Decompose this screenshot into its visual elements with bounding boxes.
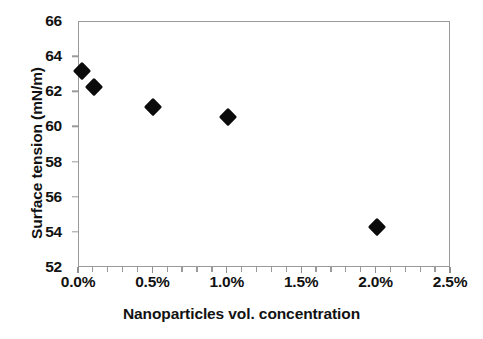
x-axis-major-tick — [301, 267, 302, 273]
x-axis-major-tick — [449, 267, 450, 273]
x-axis-minor-tick — [196, 267, 197, 272]
x-axis-tick-label: 2.5% — [433, 273, 468, 291]
x-axis-major-tick — [77, 267, 78, 273]
data-point-marker — [85, 78, 103, 96]
x-axis-major-tick — [226, 267, 227, 273]
x-axis-tick-label: 0.0% — [61, 273, 96, 291]
data-point-marker — [367, 218, 385, 236]
x-axis-title: Nanoparticles vol. concentration — [0, 305, 483, 323]
x-axis-minor-tick — [434, 267, 435, 272]
x-axis-tick-label: 0.5% — [135, 273, 170, 291]
x-axis-tick-label: 1.5% — [284, 273, 319, 291]
x-axis-minor-tick — [330, 267, 331, 272]
x-axis-minor-tick — [92, 267, 93, 272]
x-axis-minor-tick — [122, 267, 123, 272]
x-axis-minor-tick — [405, 267, 406, 272]
x-axis-minor-tick — [256, 267, 257, 272]
x-axis-tick-labels: 0.0%0.5%1.0%1.5%2.0%2.5% — [0, 273, 483, 295]
x-axis-minor-tick — [345, 267, 346, 272]
y-axis-tick-label: 56 — [45, 188, 62, 206]
data-point-marker — [144, 98, 162, 116]
x-axis-minor-tick — [390, 267, 391, 272]
y-axis-tick-label: 62 — [45, 82, 62, 100]
y-axis-tick-label: 58 — [45, 153, 62, 171]
y-axis-tick-label: 66 — [45, 12, 62, 30]
y-axis-tick-label: 60 — [45, 117, 62, 135]
x-axis-minor-tick — [241, 267, 242, 272]
x-axis-minor-tick — [181, 267, 182, 272]
plot-area — [78, 21, 450, 267]
x-axis-major-tick — [152, 267, 153, 273]
x-axis-minor-tick — [315, 267, 316, 272]
x-axis-minor-tick — [360, 267, 361, 272]
data-point-marker — [219, 108, 237, 126]
x-axis-minor-tick — [286, 267, 287, 272]
x-axis-minor-tick — [167, 267, 168, 272]
y-axis-tick-labels: 6664626058565452 — [0, 21, 70, 267]
x-axis-minor-tick — [211, 267, 212, 272]
x-axis-minor-tick — [107, 267, 108, 272]
x-axis-major-tick — [375, 267, 376, 273]
x-axis-tick-label: 1.0% — [210, 273, 245, 291]
data-point-marker — [73, 62, 91, 80]
x-axis-minor-tick — [271, 267, 272, 272]
scatter-chart-figure: Surface tension (mN/m) 6664626058565452 … — [0, 0, 483, 339]
x-axis-minor-tick — [137, 267, 138, 272]
y-axis-tick-label: 54 — [45, 223, 62, 241]
x-axis-minor-tick — [420, 267, 421, 272]
y-axis-tick-label: 64 — [45, 47, 62, 65]
x-axis-tick-label: 2.0% — [358, 273, 393, 291]
